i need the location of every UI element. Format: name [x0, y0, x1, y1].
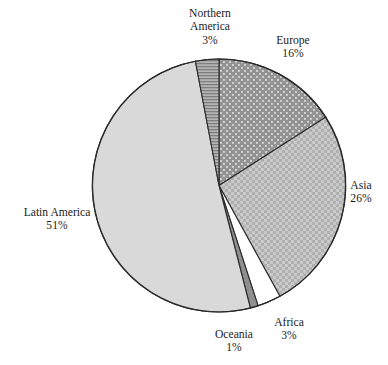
slice-label-africa-name: Africa: [274, 316, 304, 329]
slice-label-africa: Africa 3%: [259, 316, 319, 343]
slice-label-northern-america-line2: America: [190, 20, 230, 33]
slice-label-asia: Asia 26%: [334, 179, 388, 206]
slice-label-oceania-name: Oceania: [215, 328, 253, 341]
slice-percent-africa: 3%: [259, 329, 319, 342]
slice-label-europe: Europe 16%: [243, 34, 343, 61]
slice-percent-asia: 26%: [334, 192, 388, 205]
slice-percent-europe: 16%: [243, 47, 343, 60]
slice-percent-oceania: 1%: [203, 341, 265, 354]
slice-label-latin-america: Latin America 51%: [3, 206, 111, 233]
slice-label-europe-name: Europe: [276, 34, 309, 47]
pie-chart: Northern America 3% Europe 16% Asia 26% …: [0, 0, 388, 365]
slice-label-latin-america-name: Latin America: [24, 206, 91, 219]
slice-label-northern-america-line1: Northern: [189, 7, 231, 20]
slice-label-asia-name: Asia: [350, 179, 371, 192]
slice-percent-latin-america: 51%: [3, 219, 111, 232]
slice-label-oceania: Oceania 1%: [203, 328, 265, 355]
